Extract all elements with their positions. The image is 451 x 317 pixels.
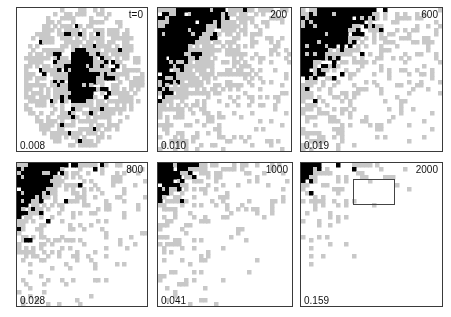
time-step-label: 600 <box>421 9 438 20</box>
time-step-label: 800 <box>126 164 143 175</box>
lattice-canvas <box>17 8 147 151</box>
panel-t0: t=00.0030.008 <box>16 7 148 152</box>
vertical-value-label: 0.085 <box>16 268 19 293</box>
lattice-canvas <box>301 8 442 151</box>
vertical-value-label: 0.314 <box>300 268 303 293</box>
time-step-label: 2000 <box>416 164 438 175</box>
bottom-value-label: 0.041 <box>161 295 186 306</box>
bottom-value-label: 0.008 <box>20 140 45 151</box>
bottom-value-label: 0.028 <box>20 295 45 306</box>
vertical-value-label: 0.117 <box>157 269 160 293</box>
panel-t600: 6000.0580.019 <box>300 7 443 152</box>
vertical-value-label: 0.018 <box>157 113 160 138</box>
panel-t800: 8000.0850.028 <box>16 162 148 307</box>
panel-t200: 2000.0180.010 <box>157 7 292 152</box>
time-step-label: t=0 <box>129 9 143 20</box>
bottom-value-label: 0.010 <box>161 140 186 151</box>
time-step-label: 1000 <box>266 164 288 175</box>
lattice-canvas <box>158 163 292 306</box>
vertical-value-label: 0.058 <box>300 113 303 138</box>
lattice-canvas <box>158 8 291 151</box>
panel-t1000: 10000.1170.041 <box>157 162 293 307</box>
vertical-value-label: 0.003 <box>16 113 19 138</box>
bottom-value-label: 0.019 <box>304 140 329 151</box>
bottom-value-label: 0.159 <box>304 295 329 306</box>
panel-t2000: 20000.3140.159 <box>300 162 443 307</box>
lattice-canvas <box>17 163 147 306</box>
time-step-label: 200 <box>270 9 287 20</box>
lattice-canvas <box>301 163 442 306</box>
figure-panel-grid: t=00.0030.0082000.0180.0106000.0580.0198… <box>0 0 451 317</box>
